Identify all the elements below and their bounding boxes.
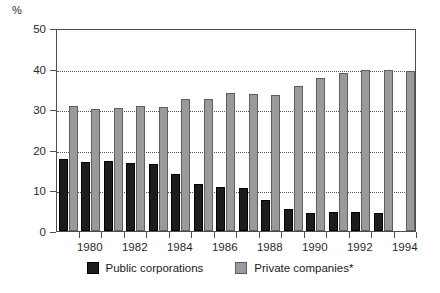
x-axis-tick-label: 1988 [257, 241, 283, 253]
bar-private-companies-1991 [339, 73, 348, 231]
x-axis-tick-label: 1990 [302, 241, 328, 253]
x-tick [416, 232, 417, 238]
gray-square-swatch-icon [235, 262, 247, 274]
legend-label-public-corporations: Public corporations [106, 262, 204, 274]
bar-public-corporations-1990 [306, 213, 315, 231]
bar-private-companies-1984 [181, 99, 190, 231]
y-axis-label-column: 01020304050 [0, 0, 46, 293]
bar-public-corporations-1987 [239, 188, 248, 231]
y-axis-tick-label: 50 [2, 23, 46, 35]
y-tick-20 [50, 151, 56, 152]
y-tick-10 [50, 191, 56, 192]
x-tick [304, 232, 305, 238]
bar-private-companies-1992 [361, 70, 370, 231]
bar-private-companies-1994 [406, 71, 415, 231]
bar-group-1990 [305, 30, 328, 231]
x-axis-tick-label: 1986 [212, 241, 238, 253]
bar-public-corporations-1982 [126, 163, 135, 231]
x-tick [124, 232, 125, 238]
bar-group-1982 [125, 30, 148, 231]
bar-private-companies-1986 [226, 93, 235, 231]
plot-area [56, 29, 416, 232]
bar-public-corporations-1984 [171, 174, 180, 231]
bar-private-companies-1982 [136, 106, 145, 231]
bar-public-corporations-1983 [149, 164, 158, 231]
y-tick-40 [50, 70, 56, 71]
bar-public-corporations-1985 [194, 184, 203, 231]
x-tick [79, 232, 80, 238]
x-tick [101, 232, 102, 238]
bar-group-1981 [102, 30, 125, 231]
bar-group-1989 [282, 30, 305, 231]
legend-item-private-companies[interactable]: Private companies* [235, 262, 353, 274]
bar-private-companies-1981 [114, 108, 123, 231]
y-tick-0 [50, 232, 56, 233]
bar-public-corporations-1989 [284, 209, 293, 231]
y-axis-tick-label: 30 [2, 104, 46, 116]
bar-private-companies-1988 [271, 95, 280, 231]
x-axis-tick-label: 1984 [167, 241, 193, 253]
bar-group-1980 [80, 30, 103, 231]
bar-public-corporations-1992 [351, 212, 360, 231]
x-axis-tick-label: 1982 [122, 241, 148, 253]
y-tick-50 [50, 29, 56, 30]
bar-public-corporations-1993 [374, 213, 383, 231]
x-tick [349, 232, 350, 238]
bar-group-1992 [350, 30, 373, 231]
x-tick [214, 232, 215, 238]
bar-group-1994 [395, 30, 418, 231]
x-tick [326, 232, 327, 238]
x-tick [169, 232, 170, 238]
bar-public-corporations-1986 [216, 187, 225, 231]
x-tick [259, 232, 260, 238]
bar-private-companies-1993 [384, 70, 393, 231]
bar-public-corporations-1979 [59, 159, 68, 231]
x-tick [146, 232, 147, 238]
bar-public-corporations-1988 [261, 200, 270, 231]
x-axis-tick-label: 1980 [77, 241, 103, 253]
bar-public-corporations-1980 [81, 162, 90, 231]
x-tick [191, 232, 192, 238]
bar-group-1983 [147, 30, 170, 231]
bar-public-corporations-1981 [104, 161, 113, 231]
x-tick [371, 232, 372, 238]
y-axis-tick-label: 10 [2, 185, 46, 197]
bar-group-1986 [215, 30, 238, 231]
bar-private-companies-1990 [316, 78, 325, 231]
x-axis-tick-label: 1992 [347, 241, 373, 253]
bar-private-companies-1987 [249, 94, 258, 231]
y-tick-30 [50, 110, 56, 111]
bar-group-1991 [327, 30, 350, 231]
x-tick [281, 232, 282, 238]
bar-group-1984 [170, 30, 193, 231]
bar-public-corporations-1991 [329, 212, 338, 231]
bar-group-1979 [57, 30, 80, 231]
x-tick [236, 232, 237, 238]
x-tick [394, 232, 395, 238]
y-axis-tick-label: 0 [2, 226, 46, 238]
bar-chart-figure: % 01020304050 19801982198419861988199019… [0, 0, 440, 293]
y-axis-tick-label: 20 [2, 145, 46, 157]
bar-private-companies-1979 [69, 106, 78, 231]
bar-private-companies-1989 [294, 86, 303, 231]
legend-label-private-companies: Private companies* [254, 262, 353, 274]
bar-private-companies-1980 [91, 109, 100, 231]
bar-private-companies-1985 [204, 99, 213, 231]
chart-legend: Public corporations Private companies* [0, 262, 440, 274]
x-axis-tick-label: 1994 [392, 241, 418, 253]
bar-group-1993 [372, 30, 395, 231]
bar-group-1987 [237, 30, 260, 231]
bar-group-1985 [192, 30, 215, 231]
bar-private-companies-1983 [159, 107, 168, 231]
bar-group-1988 [260, 30, 283, 231]
black-square-swatch-icon [87, 262, 99, 274]
legend-item-public-corporations[interactable]: Public corporations [87, 262, 204, 274]
y-axis-tick-label: 40 [2, 64, 46, 76]
